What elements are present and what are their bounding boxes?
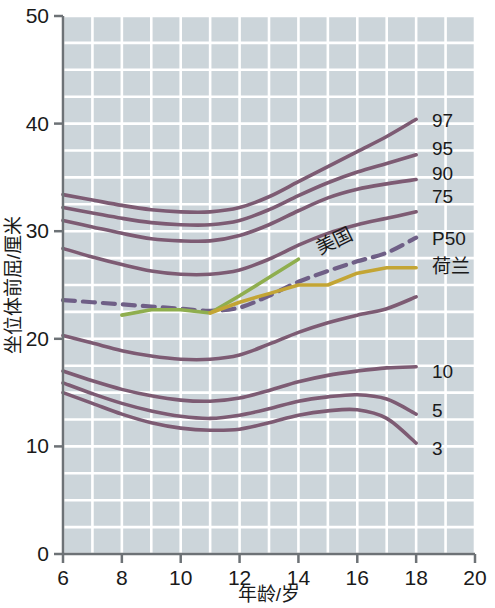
series-label-荷兰: 荷兰	[432, 255, 470, 277]
series-label-75: 75	[432, 186, 453, 207]
y-axis-ticks	[54, 16, 63, 554]
series-label-3: 3	[432, 438, 443, 459]
y-tick-label: 20	[26, 327, 49, 350]
y-tick-label: 40	[26, 112, 49, 135]
x-tick-label: 18	[404, 566, 427, 589]
chart-container: 01020304050 68101214161820 97959075P50荷兰…	[0, 0, 495, 608]
x-axis-title: 年龄/岁	[238, 584, 300, 605]
gridlines	[63, 16, 475, 554]
series-label-95: 95	[432, 138, 453, 159]
series-label-5: 5	[432, 400, 443, 421]
x-axis-ticks	[63, 554, 475, 563]
series-label-10: 10	[432, 361, 453, 382]
y-tick-label: 50	[26, 4, 49, 27]
y-axis-title: 坐位体前屈/厘米	[3, 216, 24, 354]
growth-percentile-chart: 01020304050 68101214161820 97959075P50荷兰…	[0, 0, 495, 608]
x-tick-label: 6	[57, 566, 69, 589]
y-tick-label: 0	[37, 542, 49, 565]
y-tick-label: 30	[26, 219, 49, 242]
x-tick-label: 16	[346, 566, 369, 589]
y-tick-label: 10	[26, 434, 49, 457]
series-label-97: 97	[432, 110, 453, 131]
series-label-90: 90	[432, 163, 453, 184]
x-tick-label: 20	[463, 566, 486, 589]
x-tick-label: 10	[169, 566, 192, 589]
series-label-P50: P50	[432, 228, 466, 249]
y-axis-tick-labels: 01020304050	[26, 4, 49, 565]
x-tick-label: 8	[116, 566, 128, 589]
